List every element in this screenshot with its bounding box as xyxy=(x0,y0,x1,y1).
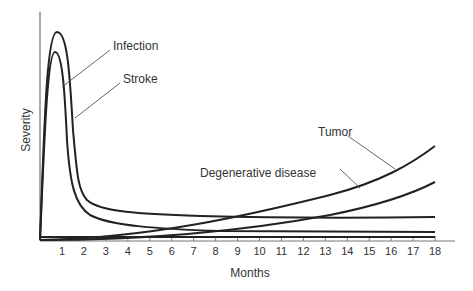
degenerative-disease-label: Degenerative disease xyxy=(200,166,316,180)
infection-label: Infection xyxy=(113,39,158,53)
curves xyxy=(40,32,435,240)
x-tick-label: 18 xyxy=(429,245,441,257)
x-tick-label: 17 xyxy=(407,245,419,257)
x-tick-label: 7 xyxy=(191,245,197,257)
x-tick-label: 10 xyxy=(253,245,265,257)
x-tick-label: 13 xyxy=(319,245,331,257)
stroke-label: Stroke xyxy=(123,72,158,86)
x-tick-label: 5 xyxy=(147,245,153,257)
severity-chart: 123456789101112131415161718 Infection St… xyxy=(0,0,473,291)
x-tick-label: 14 xyxy=(341,245,353,257)
x-tick-label: 11 xyxy=(276,245,287,257)
y-axis-label: Severity xyxy=(19,108,33,151)
tumor-leader xyxy=(348,136,395,169)
x-tick-label: 16 xyxy=(385,245,397,257)
x-tick-label: 6 xyxy=(169,245,175,257)
x-tick-label: 3 xyxy=(103,245,109,257)
x-tick-label: 4 xyxy=(125,245,131,257)
tumor-curve xyxy=(40,146,435,240)
tumor-label: Tumor xyxy=(318,125,352,139)
stroke-curve xyxy=(40,52,435,240)
x-axis-label: Months xyxy=(230,266,269,280)
x-tick-label: 2 xyxy=(81,245,87,257)
infection-curve xyxy=(40,32,435,240)
x-tick-label: 12 xyxy=(297,245,309,257)
x-tick-label: 8 xyxy=(213,245,219,257)
x-tick-label: 15 xyxy=(363,245,375,257)
stroke-leader xyxy=(75,83,120,118)
x-tick-label: 9 xyxy=(234,245,240,257)
x-tick-label: 1 xyxy=(59,245,65,257)
degenerative-leader xyxy=(340,169,360,188)
